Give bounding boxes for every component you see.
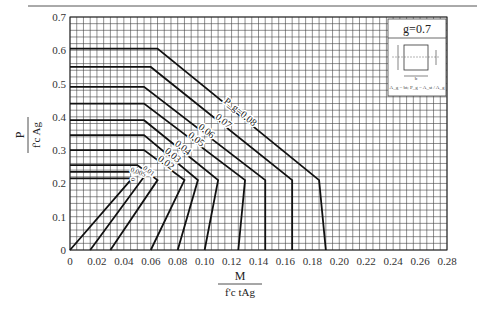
svg-text:0.04: 0.04 [114,255,134,267]
x-axis-label: M f'c tAg [218,269,262,298]
g-value-title: g=0.7 [403,22,431,36]
svg-text:0.6: 0.6 [52,44,66,56]
legend-note: A_g = bt; P_g = A_st / A_g [390,85,445,90]
svg-text:0.3: 0.3 [52,144,66,156]
svg-text:0.1: 0.1 [52,211,66,223]
svg-text:0.14: 0.14 [249,255,269,267]
svg-text:0.20: 0.20 [330,255,350,267]
curve-0 [70,178,131,250]
svg-text:0.08: 0.08 [168,255,188,267]
svg-text:0.06: 0.06 [141,255,161,267]
curve-label: 0.07 [213,111,234,131]
svg-text:0.12: 0.12 [222,255,241,267]
interaction-chart: 00.0050.010.020.030.040.050.060.07P_g=0.… [0,0,477,316]
x-axis-ticks: 00.020.040.060.080.100.120.140.160.180.2… [67,255,457,267]
svg-text:0.10: 0.10 [195,255,215,267]
svg-text:0.2: 0.2 [52,177,66,189]
svg-text:f'c tAg: f'c tAg [225,286,255,298]
svg-text:0.7: 0.7 [52,11,66,23]
svg-text:0.22: 0.22 [357,255,376,267]
svg-text:0.24: 0.24 [384,255,404,267]
curve-label: 0 [129,178,137,182]
svg-text:f'c Ag: f'c Ag [30,121,42,148]
svg-text:0.4: 0.4 [52,111,66,123]
y-axis-ticks: 00.10.20.30.40.50.60.7 [52,11,66,256]
svg-text:0.18: 0.18 [303,255,323,267]
legend-box: g=0.7 b A_g = bt; P_g = A_st / A_g [388,19,446,96]
svg-text:0.5: 0.5 [52,78,66,90]
svg-text:P: P [13,131,27,138]
svg-text:0.16: 0.16 [276,255,296,267]
svg-text:0.02: 0.02 [87,255,106,267]
svg-text:0: 0 [61,244,67,256]
svg-text:0.28: 0.28 [437,255,457,267]
y-axis-label: P f'c Ag [13,117,42,153]
svg-text:0.26: 0.26 [410,255,430,267]
svg-text:M: M [235,269,246,283]
svg-text:0: 0 [67,255,73,267]
